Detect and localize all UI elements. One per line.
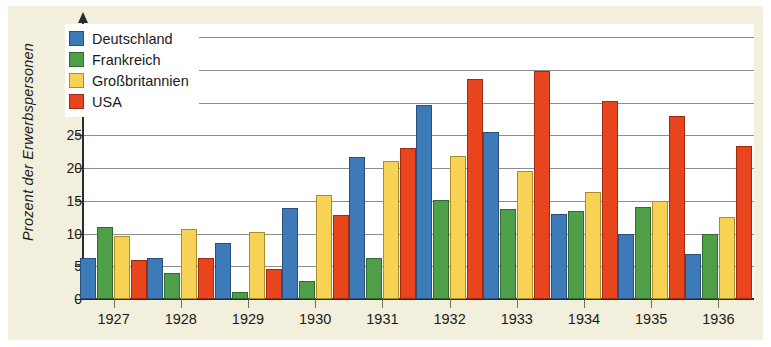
legend-item: Frankreich	[69, 49, 189, 70]
bar-group	[349, 24, 417, 299]
bar-group	[483, 24, 551, 299]
bar	[383, 161, 399, 299]
bar-group	[416, 24, 484, 299]
x-axis-tick-label: 1931	[366, 311, 398, 327]
legend-swatch-icon	[69, 94, 84, 109]
legend-label: Großbritannien	[92, 73, 189, 89]
x-axis-tick-label: 1935	[635, 311, 667, 327]
x-axis-tick-label: 1927	[97, 311, 129, 327]
bar	[500, 209, 516, 299]
bar	[585, 192, 601, 299]
bar-group	[282, 24, 350, 299]
bar-group	[618, 24, 686, 299]
bar	[467, 79, 483, 299]
bar	[618, 234, 634, 299]
bar	[602, 101, 618, 299]
legend-swatch-icon	[69, 52, 84, 67]
bar-group	[215, 24, 283, 299]
bar	[702, 234, 718, 299]
bar	[483, 132, 499, 299]
x-axis-tick-mark	[248, 299, 249, 308]
x-axis-tick-mark	[315, 299, 316, 308]
bar	[266, 269, 282, 299]
legend-item: USA	[69, 91, 189, 112]
x-axis-tick-label: 1936	[702, 311, 734, 327]
x-axis-tick-mark	[181, 299, 182, 308]
bar	[316, 195, 332, 299]
legend-label: USA	[92, 94, 122, 110]
x-axis-tick-label: 1929	[232, 311, 264, 327]
x-axis-tick-mark	[517, 299, 518, 308]
bar	[333, 215, 349, 299]
bar	[652, 201, 668, 299]
bar	[114, 236, 130, 300]
bar	[450, 156, 466, 299]
x-axis-tick-mark	[718, 299, 719, 308]
x-axis-tick-mark	[584, 299, 585, 308]
bar	[80, 258, 96, 299]
bar	[635, 207, 651, 299]
bar	[181, 229, 197, 299]
bar	[349, 157, 365, 299]
bar	[164, 273, 180, 299]
bar-group	[551, 24, 619, 299]
x-axis-tick-label: 1934	[568, 311, 600, 327]
legend-item: Großbritannien	[69, 70, 189, 91]
bar	[282, 208, 298, 299]
bar	[366, 258, 382, 299]
bar	[517, 171, 533, 299]
bar	[232, 292, 248, 299]
bar	[198, 258, 214, 299]
legend-item: Deutschland	[69, 28, 189, 49]
bar	[249, 232, 265, 299]
legend-label: Frankreich	[92, 52, 161, 68]
bar	[215, 243, 231, 299]
legend-swatch-icon	[69, 73, 84, 88]
x-axis-tick-label: 1932	[433, 311, 465, 327]
bar	[400, 148, 416, 299]
x-axis-tick-mark	[382, 299, 383, 308]
bar	[416, 105, 432, 299]
legend-label: Deutschland	[92, 31, 173, 47]
bar	[568, 211, 584, 299]
x-axis-tick-label: 1930	[299, 311, 331, 327]
bar	[669, 116, 685, 299]
y-axis-tick-mark	[75, 299, 82, 300]
bar	[131, 260, 147, 299]
bar	[551, 214, 567, 299]
bar	[685, 254, 701, 299]
bar	[433, 200, 449, 299]
chart-legend: DeutschlandFrankreichGroßbritannienUSA	[65, 24, 199, 117]
x-axis-tick-label: 1933	[501, 311, 533, 327]
bar-group	[685, 24, 753, 299]
chart-paper-panel: 0510152025303540 Prozent der Erwerbspers…	[8, 6, 763, 340]
chart-screenshot: 0510152025303540 Prozent der Erwerbspers…	[0, 0, 771, 347]
bar	[147, 258, 163, 299]
bar	[736, 146, 752, 299]
bar	[299, 281, 315, 299]
bar	[97, 227, 113, 299]
legend-swatch-icon	[69, 31, 84, 46]
x-axis-tick-mark	[114, 299, 115, 308]
x-axis-tick-mark	[651, 299, 652, 308]
y-axis-label: Prozent der Erwerbspersonen	[20, 12, 36, 272]
bar	[534, 71, 550, 300]
bar	[719, 217, 735, 299]
x-axis-tick-label: 1928	[165, 311, 197, 327]
x-axis-tick-mark	[450, 299, 451, 308]
